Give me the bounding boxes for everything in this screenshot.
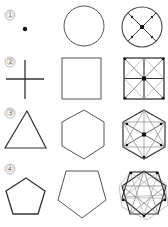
inverted-pentagon-shape: [58, 171, 106, 218]
row-1: ①: [5, 6, 162, 47]
row-2: ②: [5, 57, 164, 99]
row-3: ③: [5, 108, 165, 159]
row-2-label: ②: [6, 57, 14, 67]
diagram-canvas: ① ②: [0, 0, 168, 227]
circle-with-diagonals: [122, 7, 162, 47]
circle-shape: [64, 6, 104, 46]
hexagon-shape: [62, 110, 104, 159]
row-4-label: ④: [6, 164, 14, 174]
row-3-label: ③: [6, 108, 14, 118]
decagon-star: [119, 171, 168, 220]
square-shape: [62, 58, 101, 99]
square-with-grid-and-diagonals: [124, 58, 165, 100]
pentagon-shape: [6, 178, 45, 214]
row-4: ④: [5, 164, 168, 220]
row-1-label: ①: [6, 10, 14, 20]
hexagon-with-star-lines: [123, 110, 165, 159]
point-icon: [23, 27, 27, 31]
